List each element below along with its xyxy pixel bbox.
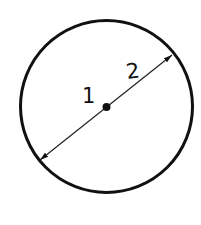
center-label: 1 [82, 84, 95, 108]
center-point [103, 103, 111, 111]
diameter-label: 2 [125, 58, 142, 84]
circle-diagram: 1 2 [0, 0, 201, 225]
